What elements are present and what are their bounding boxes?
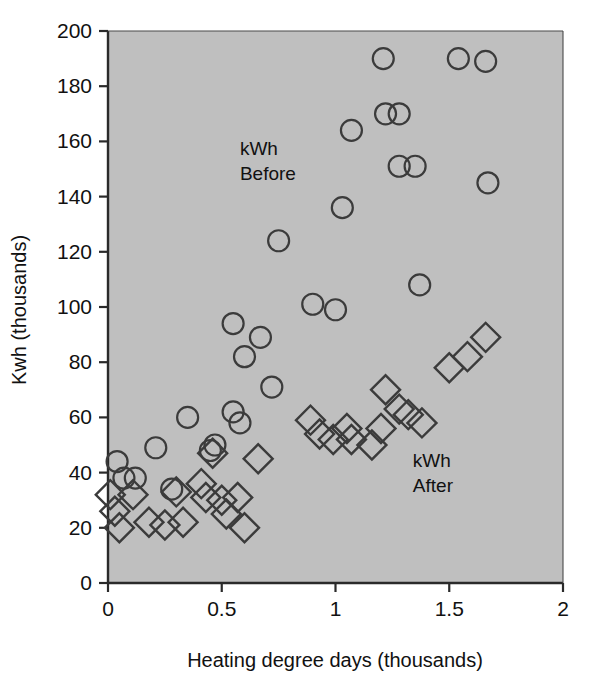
- scatter-chart-figure: 00.511.52 020406080100120140160180200 kW…: [0, 0, 592, 684]
- x-tick-label: 2: [557, 597, 569, 620]
- y-tick-label: 0: [80, 571, 92, 594]
- y-tick-label: 20: [69, 516, 92, 539]
- y-tick-label: 140: [57, 185, 92, 208]
- y-tick-label: 60: [69, 405, 92, 428]
- y-tick-label: 100: [57, 295, 92, 318]
- y-tick-label: 120: [57, 240, 92, 263]
- y-tick-label: 160: [57, 129, 92, 152]
- y-tick-label: 200: [57, 19, 92, 42]
- series-annotation-line: After: [413, 475, 454, 496]
- x-tick-label: 1: [330, 597, 342, 620]
- series-annotation-line: kWh: [413, 450, 451, 471]
- x-axis-title: Heating degree days (thousands): [187, 649, 483, 671]
- series-annotation-line: Before: [240, 163, 296, 184]
- x-tick-label: 1.5: [435, 597, 464, 620]
- x-tick-label: 0: [102, 597, 114, 620]
- x-tick-label: 0.5: [207, 597, 236, 620]
- y-tick-label: 40: [69, 461, 92, 484]
- y-tick-label: 80: [69, 350, 92, 373]
- series-annotation-line: kWh: [240, 138, 278, 159]
- chart-canvas: 00.511.52 020406080100120140160180200 kW…: [0, 0, 592, 684]
- plot-area-background: [108, 31, 563, 583]
- y-tick-label: 180: [57, 74, 92, 97]
- y-axis-title: Kwh (thousands): [8, 235, 30, 385]
